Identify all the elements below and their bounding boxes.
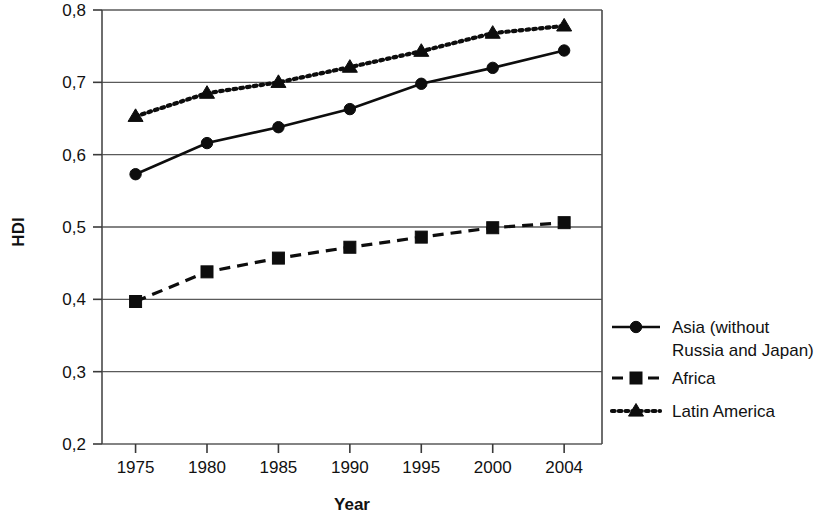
legend-label: Asia (without <box>672 318 770 337</box>
data-point <box>558 45 569 56</box>
legend-marker <box>630 372 642 384</box>
data-point <box>487 62 498 73</box>
y-tick-label-0,4: 0,4 <box>62 290 86 309</box>
data-point <box>272 252 284 264</box>
x-tick-label-1975: 1975 <box>117 458 155 477</box>
legend-label: Africa <box>672 369 716 388</box>
x-tick-label-1980: 1980 <box>188 458 226 477</box>
data-point <box>415 231 427 243</box>
data-point <box>487 222 499 234</box>
hdi-line-chart: 1975198019851990199520002004 0,20,30,40,… <box>0 0 839 520</box>
legend-label: Russia and Japan) <box>672 341 814 360</box>
x-tick-label-1995: 1995 <box>402 458 440 477</box>
y-tick-label-0,8: 0,8 <box>62 1 86 20</box>
x-tick-label-2004: 2004 <box>545 458 583 477</box>
y-tick-label-0,2: 0,2 <box>62 435 86 454</box>
y-axis-title: HDI <box>9 217 28 246</box>
data-point <box>344 103 355 114</box>
y-tick-label-0,6: 0,6 <box>62 146 86 165</box>
x-tick-label-1990: 1990 <box>331 458 369 477</box>
legend-marker <box>630 321 641 332</box>
x-tick-label-2000: 2000 <box>474 458 512 477</box>
data-point <box>130 168 141 179</box>
y-tick-label-0,7: 0,7 <box>62 73 86 92</box>
x-tick-label-1985: 1985 <box>260 458 298 477</box>
x-axis-title: Year <box>334 495 370 514</box>
y-tick-label-0,3: 0,3 <box>62 363 86 382</box>
data-point <box>273 121 284 132</box>
data-point <box>558 217 570 229</box>
data-point <box>416 78 427 89</box>
data-point <box>130 296 142 308</box>
legend-label: Latin America <box>672 402 776 421</box>
y-tick-label-0,5: 0,5 <box>62 218 86 237</box>
data-point <box>344 241 356 253</box>
data-point <box>201 266 213 278</box>
data-point <box>201 137 212 148</box>
